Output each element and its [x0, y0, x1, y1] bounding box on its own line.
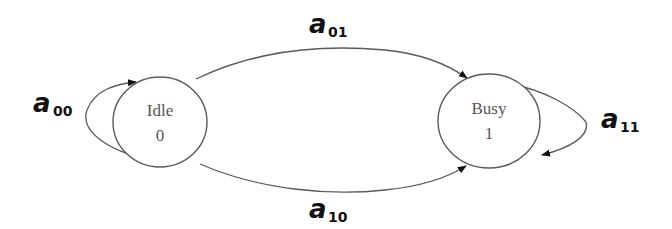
label-a01: a 01 — [309, 9, 347, 40]
edge-idle-to-busy-bottom — [200, 164, 466, 192]
label-a01-subscript: 01 — [328, 24, 347, 40]
node-busy-name: Busy — [472, 99, 507, 118]
label-a10: a 10 — [309, 194, 348, 225]
node-busy-shape — [438, 74, 540, 168]
label-a11-symbol: a — [601, 104, 619, 134]
label-a10-subscript: 10 — [328, 209, 348, 225]
label-a01-symbol: a — [309, 9, 327, 39]
node-idle-name: Idle — [147, 101, 173, 120]
edge-idle-to-busy-top — [196, 48, 467, 79]
label-a00-symbol: a — [33, 88, 51, 118]
state-diagram: Idle 0 Busy 1 a 00 a 01 a 10 a 11 — [0, 0, 672, 229]
label-a11-subscript: 11 — [620, 119, 639, 135]
node-idle: Idle 0 — [113, 77, 207, 167]
label-a00: a 00 — [33, 88, 73, 119]
node-busy-value: 1 — [485, 124, 494, 143]
node-idle-value: 0 — [156, 126, 165, 145]
label-a10-symbol: a — [309, 194, 327, 224]
node-busy: Busy 1 — [438, 74, 540, 168]
node-idle-shape — [113, 77, 207, 167]
label-a00-subscript: 00 — [53, 103, 73, 119]
label-a11: a 11 — [601, 104, 639, 135]
